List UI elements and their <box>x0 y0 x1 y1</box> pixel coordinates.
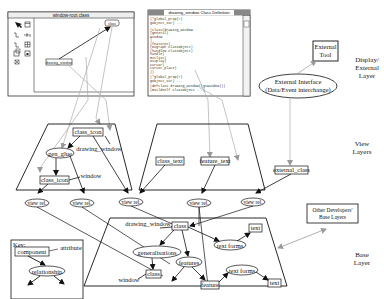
svg-text:external_class: external_class <box>273 166 310 173</box>
svg-text:view rel.: view rel. <box>72 200 92 206</box>
class-definition-window[interactable]: drawing_window Class Definition (*global… <box>148 10 250 96</box>
svg-text:Layers: Layers <box>352 148 371 156</box>
svg-text:class_icon: class_icon <box>74 128 102 135</box>
scrollbar[interactable] <box>243 16 250 97</box>
svg-text:attribute: attribute <box>60 244 82 251</box>
svg-text:drawing_window: drawing_window <box>125 220 171 227</box>
view-rel-row: view rel. view rel. view rel. view rel. … <box>25 198 265 207</box>
svg-text:class_icon: class_icon <box>41 176 69 183</box>
other-developers-box: Other Developers' Base Layers <box>307 204 358 223</box>
svg-text:text: text <box>270 279 280 286</box>
svg-text:View: View <box>355 140 371 148</box>
svg-text:Base Layers: Base Layers <box>319 214 346 220</box>
svg-text:gobject_var) ...: gobject_var) ... <box>150 21 183 25</box>
svg-text:class: class <box>147 270 160 277</box>
class-def-title: drawing_window Class Definition <box>168 10 230 15</box>
svg-text:generalisations: generalisations <box>138 249 177 256</box>
svg-text:Base: Base <box>355 251 369 259</box>
svg-text:feature: feature <box>201 281 219 288</box>
svg-text:Display/: Display/ <box>355 56 379 64</box>
svg-text:feature_text: feature_text <box>199 157 230 164</box>
external-interface: External Interface (Data/Event interchan… <box>259 74 337 98</box>
svg-text:(BuildSelf ClassObject ...): (BuildSelf ClassObject ...) <box>150 88 205 92</box>
legend-key: Key: component attribute relationship <box>11 240 83 299</box>
view-layer-3-nodes: external_class <box>273 166 310 174</box>
view-layer-1-nodes: class_icon gen_glue drawing_window class… <box>40 128 122 184</box>
svg-text:relationship: relationship <box>32 268 63 275</box>
svg-text:class: class <box>108 22 116 26</box>
svg-text:features: features <box>179 259 200 266</box>
scroll-thumb[interactable] <box>244 21 249 27</box>
view-layer-2-nodes: class_text feature_text <box>156 157 231 165</box>
svg-text:text: text <box>251 224 261 231</box>
layer-label-display: Display/ External Layer <box>355 56 379 80</box>
svg-text:view rel.: view rel. <box>27 200 47 206</box>
layer-label-base: Base Layer <box>354 251 371 267</box>
svg-text:Layer: Layer <box>354 259 371 267</box>
architecture-diagram: window-root class class drawing_window <box>0 0 384 299</box>
window-root-title: window-root class <box>53 13 90 18</box>
svg-text:view rel.: view rel. <box>243 199 263 205</box>
svg-text:Tool: Tool <box>320 51 332 58</box>
svg-text:window: window <box>81 172 102 179</box>
svg-text:External: External <box>314 43 336 50</box>
svg-text:External Interface: External Interface <box>275 78 322 85</box>
svg-text:gen_glue: gen_glue <box>48 150 72 157</box>
window-root-window[interactable]: window-root class class drawing_window <box>8 12 134 96</box>
external-tool: External Tool <box>313 41 338 61</box>
svg-text:text forms: text forms <box>229 267 256 274</box>
svg-text:External: External <box>355 64 379 72</box>
svg-text:class: class <box>174 222 187 229</box>
layer-label-view: View Layers <box>352 140 371 156</box>
svg-text:gobject_var) ...: gobject_var) ... <box>150 79 183 83</box>
base-layer-nodes: class drawing_window generalisations cla… <box>119 220 281 289</box>
svg-text:text forms: text forms <box>217 242 244 249</box>
svg-text:window: window <box>119 276 140 283</box>
svg-text:drawing_window: drawing_window <box>46 61 73 65</box>
svg-text:)): )) <box>150 70 154 74</box>
svg-text:component: component <box>18 248 47 255</box>
svg-text:class_text: class_text <box>157 157 183 164</box>
svg-text:view rel.: view rel. <box>189 200 209 206</box>
svg-text:view rel.: view rel. <box>121 199 141 205</box>
svg-text:Other Developers': Other Developers' <box>313 207 353 213</box>
svg-text:(Data/Event interchange): (Data/Event interchange) <box>265 86 331 94</box>
svg-text:Layer: Layer <box>359 72 376 80</box>
